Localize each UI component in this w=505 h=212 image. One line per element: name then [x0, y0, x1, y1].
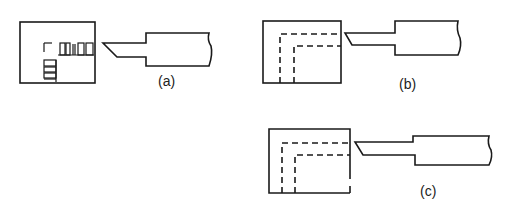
- panel-label-a: (a): [158, 73, 175, 89]
- panel-label-c: (c): [420, 183, 436, 199]
- panel-a: (a): [20, 22, 212, 89]
- diagram-canvas: (a) (b) (c): [0, 0, 505, 212]
- workpiece-b: [263, 21, 341, 83]
- panel-b: (b): [263, 21, 461, 92]
- panel-label-b: (b): [399, 76, 416, 92]
- cutting-tool-a: [103, 33, 212, 66]
- panel-c: (c): [269, 129, 492, 199]
- tool-path-outer-b: [280, 34, 341, 83]
- tool-path-outer-c: [282, 143, 350, 193]
- cutting-tool-c: [355, 136, 492, 165]
- machined-region-a: [44, 43, 94, 82]
- workpiece-c: [269, 129, 350, 193]
- tool-path-inner-b: [294, 46, 341, 83]
- tool-path-inner-c: [295, 155, 350, 193]
- cutting-tool-b: [345, 21, 461, 55]
